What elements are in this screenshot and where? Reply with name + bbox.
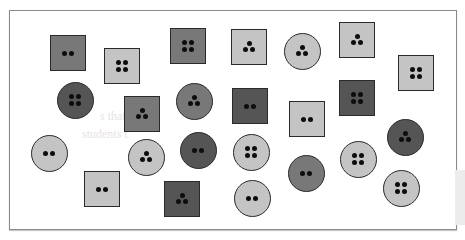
hole-dot — [182, 47, 187, 52]
hole-dot — [123, 67, 128, 72]
hole-dot — [307, 171, 312, 176]
hole-dot — [403, 131, 408, 136]
holes-group — [244, 145, 258, 159]
hole-dot — [402, 182, 407, 187]
hole-dot — [76, 101, 81, 106]
holes-group — [242, 40, 256, 54]
hole-dot — [247, 41, 252, 46]
mid-square-button-4-holes-icon — [170, 28, 206, 64]
hole-dot — [62, 51, 67, 56]
hole-dot — [359, 153, 364, 158]
hole-dot — [351, 99, 356, 104]
hole-dot — [140, 108, 145, 113]
hole-dot — [96, 187, 101, 192]
holes-group — [175, 192, 189, 206]
holes-group — [61, 46, 75, 60]
bleed-through-text-2: students t — [82, 127, 128, 142]
mid-square-button-2-holes-icon — [50, 35, 86, 71]
holes-group — [95, 182, 109, 196]
hole-dot — [144, 151, 149, 156]
holes-group — [191, 143, 205, 157]
hole-dot — [147, 157, 152, 162]
hole-dot — [244, 104, 249, 109]
holes-group — [115, 59, 129, 73]
hole-dot — [402, 189, 407, 194]
dark-square-button-4-holes-icon — [339, 80, 375, 116]
light-circle-button-3-holes-icon — [284, 33, 321, 70]
hole-dot — [300, 171, 305, 176]
hole-dot — [69, 51, 74, 56]
dark-circle-button-2-holes-icon — [180, 132, 217, 169]
hole-dot — [116, 60, 121, 65]
mid-circle-button-3-holes-icon — [176, 83, 213, 120]
holes-group — [42, 146, 56, 160]
hole-dot — [253, 196, 258, 201]
dark-square-button-3-holes-icon — [164, 181, 200, 217]
hole-dot — [359, 160, 364, 165]
dark-square-button-2-holes-icon — [232, 88, 268, 124]
hole-dot — [180, 193, 185, 198]
light-circle-button-2-holes-icon — [234, 180, 271, 217]
hole-dot — [103, 187, 108, 192]
holes-group — [245, 191, 259, 205]
hole-dot — [246, 196, 251, 201]
hole-dot — [182, 40, 187, 45]
hole-dot — [245, 153, 250, 158]
hole-dot — [189, 40, 194, 45]
dark-circle-button-4-holes-icon — [57, 82, 94, 119]
holes-group — [243, 99, 257, 113]
page-edge-shadow — [455, 170, 465, 225]
hole-dot — [188, 101, 193, 106]
hole-dot — [406, 137, 411, 142]
light-circle-button-4-holes-icon — [233, 134, 270, 171]
light-circle-button-2-holes-icon — [31, 135, 68, 172]
hole-dot — [352, 153, 357, 158]
hole-dot — [351, 40, 356, 45]
hole-dot — [300, 45, 305, 50]
holes-group — [398, 130, 412, 144]
holes-group — [300, 112, 314, 126]
light-circle-button-4-holes-icon — [383, 170, 420, 207]
hole-dot — [352, 160, 357, 165]
hole-dot — [192, 95, 197, 100]
hole-dot — [410, 74, 415, 79]
holes-group — [394, 181, 408, 195]
dark-circle-button-3-holes-icon — [387, 119, 424, 156]
hole-dot — [296, 51, 301, 56]
hole-dot — [308, 117, 313, 122]
holes-group — [351, 152, 365, 166]
mid-square-button-3-holes-icon — [124, 96, 160, 132]
holes-group — [409, 66, 423, 80]
hole-dot — [69, 94, 74, 99]
hole-dot — [189, 47, 194, 52]
hole-dot — [301, 117, 306, 122]
holes-group — [350, 33, 364, 47]
hole-dot — [243, 47, 248, 52]
hole-dot — [399, 137, 404, 142]
hole-dot — [358, 99, 363, 104]
figure-canvas: s that are di students t — [0, 0, 465, 240]
hole-dot — [395, 182, 400, 187]
light-square-button-2-holes-icon — [289, 101, 325, 137]
hole-dot — [43, 151, 48, 156]
mid-circle-button-2-holes-icon — [288, 155, 325, 192]
light-square-button-3-holes-icon — [339, 22, 375, 58]
hole-dot — [252, 146, 257, 151]
light-square-button-4-holes-icon — [104, 48, 140, 84]
hole-dot — [358, 92, 363, 97]
hole-dot — [69, 101, 74, 106]
hole-dot — [410, 67, 415, 72]
hole-dot — [358, 40, 363, 45]
holes-group — [181, 39, 195, 53]
hole-dot — [199, 148, 204, 153]
holes-group — [135, 107, 149, 121]
hole-dot — [195, 101, 200, 106]
hole-dot — [192, 148, 197, 153]
hole-dot — [176, 199, 181, 204]
light-square-button-2-holes-icon — [84, 171, 120, 207]
holes-group — [299, 166, 313, 180]
hole-dot — [140, 157, 145, 162]
holes-group — [295, 44, 309, 58]
hole-dot — [395, 189, 400, 194]
light-circle-button-4-holes-icon — [340, 141, 377, 178]
